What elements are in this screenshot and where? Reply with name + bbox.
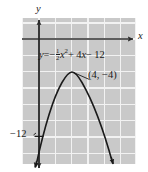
equation-plus-term: + 4 <box>68 49 82 60</box>
equation-minus: − <box>49 49 55 60</box>
fraction-denominator: 2 <box>56 54 60 62</box>
fraction-numerator: 1 <box>56 48 60 55</box>
vertex-point-label: (4, −4) <box>88 70 117 81</box>
equation-minus-constant: − 12 <box>86 49 105 60</box>
equation-fraction: 12 <box>56 48 60 62</box>
y-axis-label: y <box>36 4 41 15</box>
parabola-figure: y x y=−12x2+ 4x− 12 (4, −4) −12 <box>0 0 148 172</box>
x-axis-label: x <box>138 31 143 42</box>
graph-canvas <box>0 0 148 172</box>
equation-label: y=−12x2+ 4x− 12 <box>39 48 105 62</box>
y-intercept-label: −12 <box>10 129 26 140</box>
